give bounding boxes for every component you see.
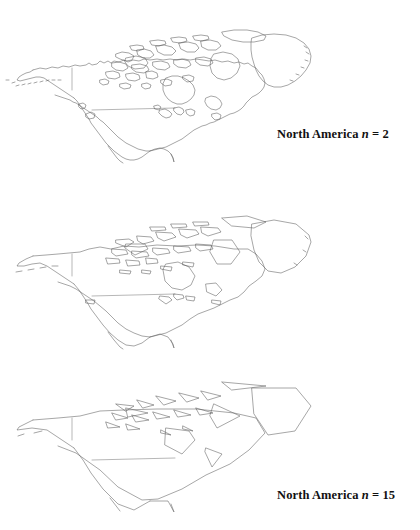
- map-panel-3: North America n = 45: [0, 360, 420, 520]
- map-canvas-detail-low: [0, 360, 420, 520]
- map-panel-1: North America n = 2: [0, 10, 420, 170]
- panel-label-1-prefix: North America: [277, 127, 362, 141]
- map-canvas-detail-medium: [0, 196, 420, 356]
- north-america-outline-medium: [16, 216, 311, 349]
- map-panel-2: North America n = 15: [0, 196, 420, 356]
- panel-label-1: North America n = 2: [277, 127, 389, 142]
- figure-north-america-generalization: North America n = 2: [0, 0, 420, 530]
- panel-label-1-variable: n: [362, 127, 369, 141]
- panel-label-1-suffix: = 2: [369, 127, 389, 141]
- north-america-outline-low: [17, 382, 311, 512]
- north-america-outline-high: [6, 30, 311, 163]
- map-canvas-detail-high: [0, 10, 420, 170]
